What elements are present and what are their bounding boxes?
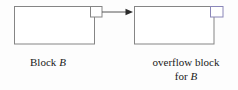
overflow-block-pointer-cell [211, 7, 224, 18]
left-block-label-text: Block [30, 56, 56, 68]
overflow-block-label-line2: forB [144, 70, 228, 82]
overflow-block-label: overflow block forB [144, 56, 228, 82]
left-block-label-variable: B [56, 56, 66, 68]
overflow-block-label-line1: overflow block [153, 56, 220, 68]
overflow-pointer-arrow-head [126, 9, 134, 15]
overflow-block-label-line2-variable: B [188, 70, 198, 82]
overflow-block-diagram: BlockB overflow block forB [0, 0, 238, 90]
overflow-block-rect [135, 7, 215, 45]
overflow-block-label-line2-prefix: for [175, 70, 188, 82]
left-block-rect [15, 7, 95, 45]
left-block-pointer-cell [91, 7, 103, 18]
left-block-label: BlockB [30, 56, 66, 68]
